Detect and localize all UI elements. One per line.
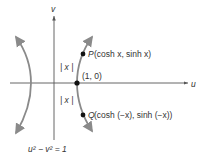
point-q-label: (cosh (−x), sinh (−x)): [94, 110, 173, 120]
hyperbola-right-branch-lower: [77, 83, 92, 131]
u-axis-label: u: [191, 79, 196, 89]
point-q: [81, 113, 86, 118]
vertex-label: (1, 0): [82, 71, 102, 81]
point-p: [81, 52, 86, 57]
hyperbola-left-branch-upper: [16, 37, 31, 83]
upper-distance-label: | x |: [60, 62, 73, 72]
curve-equation-label: u² − v² = 1: [28, 144, 67, 154]
lower-distance-label: | x |: [60, 95, 73, 105]
vertex-point: [74, 80, 79, 85]
hyperbola-left-branch-lower: [16, 83, 31, 133]
point-p-label: (cosh x, sinh x): [94, 49, 151, 59]
hyperbola-diagram: v u (1, 0) P (cosh x, sinh x) Q (cosh (−…: [0, 0, 205, 155]
v-axis-label: v: [51, 4, 56, 14]
